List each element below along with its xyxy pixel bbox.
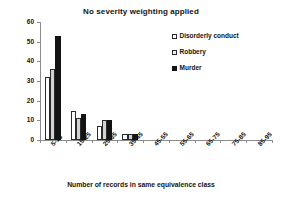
x-tick-25-35: [92, 140, 93, 143]
x-tick-end: [272, 140, 273, 143]
bar-murder-5-15: [55, 36, 60, 140]
x-tick-75-85: [220, 140, 221, 143]
legend-label: Robbery: [180, 49, 206, 56]
legend-item-disorderly-conduct[interactable]: Disorderly conduct: [172, 30, 239, 42]
y-axis-line: [40, 22, 41, 140]
legend-swatch-icon: [172, 50, 177, 55]
x-tick-label-15-25: 15-25: [76, 143, 81, 148]
x-tick-label-45-55: 45-55: [153, 143, 158, 148]
bar-group-5-15: [45, 22, 61, 140]
y-tick-60: [37, 22, 40, 23]
legend-item-robbery[interactable]: Robbery: [172, 46, 239, 58]
x-tick-label-85-95: 85-95: [257, 143, 262, 148]
x-tick-35-45: [117, 140, 118, 143]
bar-group-45-55: [148, 22, 164, 140]
x-tick-65-75: [195, 140, 196, 143]
y-tick-30: [37, 81, 40, 82]
x-tick-45-55: [143, 140, 144, 143]
x-tick-label-5-15: 5-15: [50, 143, 55, 148]
bar-group-35-45: [122, 22, 138, 140]
y-tick-label-40: 40: [18, 58, 34, 65]
y-tick-label-50: 50: [18, 39, 34, 46]
x-tick-5-15: [40, 140, 41, 143]
y-tick-label-20: 20: [18, 98, 34, 105]
legend-swatch-icon: [172, 34, 177, 39]
legend-swatch-icon: [172, 66, 177, 71]
x-tick-55-65: [169, 140, 170, 143]
x-axis-label: Number of records in same equivalence cl…: [0, 181, 282, 188]
bar-group-15-25: [71, 22, 87, 140]
legend-label: Disorderly conduct: [180, 33, 239, 40]
x-tick-label-65-75: 65-75: [205, 143, 210, 148]
bar-chart-figure: No severity weighting applied Frequency …: [0, 0, 282, 199]
x-tick-label-25-35: 25-35: [102, 143, 107, 148]
y-tick-20: [37, 101, 40, 102]
x-tick-label-35-45: 35-45: [128, 143, 133, 148]
y-tick-label-0: 0: [18, 137, 34, 144]
y-tick-40: [37, 61, 40, 62]
y-tick-label-10: 10: [18, 117, 34, 124]
x-tick-label-55-65: 55-65: [179, 143, 184, 148]
x-tick-label-75-85: 75-85: [231, 143, 236, 148]
x-tick-85-95: [246, 140, 247, 143]
legend-label: Murder: [180, 65, 202, 72]
chart-title: No severity weighting applied: [0, 7, 282, 16]
y-tick-label-60: 60: [18, 19, 34, 26]
bar-group-85-95: [251, 22, 267, 140]
legend-item-murder[interactable]: Murder: [172, 62, 239, 74]
chart-legend: Disorderly conductRobberyMurder: [172, 30, 239, 78]
bar-group-25-35: [97, 22, 113, 140]
y-tick-label-30: 30: [18, 78, 34, 85]
x-tick-15-25: [66, 140, 67, 143]
y-tick-50: [37, 42, 40, 43]
y-tick-10: [37, 120, 40, 121]
